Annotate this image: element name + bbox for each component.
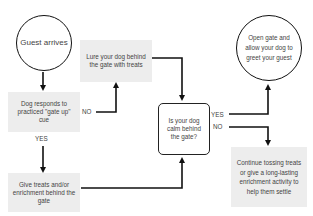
open-gate-node: Open gate and allow your dog to greet yo…: [236, 15, 302, 81]
continue-tossing-text: Continue tossing treats or give a long-l…: [234, 158, 304, 196]
guest-arrives-text: Guest arrives: [20, 37, 68, 49]
lure-dog-text: Lure your dog behind the gate with treat…: [84, 53, 148, 69]
open-gate-text: Open gate and allow your dog to greet yo…: [245, 33, 293, 63]
calm-no-label: NO: [213, 123, 222, 130]
responds-no-label: NO: [82, 108, 91, 115]
calm-yes-label: YES: [211, 111, 224, 118]
dog-responds-text: Dog responds to practiced "gate up" cue: [13, 100, 75, 124]
is-dog-calm-node: Is your dog calm behind the gate?: [158, 103, 210, 155]
continue-tossing-node: Continue tossing treats or give a long-l…: [231, 147, 307, 207]
guest-arrives-node: Guest arrives: [16, 15, 72, 71]
responds-yes-label: YES: [35, 135, 48, 142]
dog-responds-node: Dog responds to practiced "gate up" cue: [8, 92, 80, 132]
is-dog-calm-text: Is your dog calm behind the gate?: [163, 117, 205, 141]
give-treats-text: Give treats and/or enrichment behind the…: [12, 181, 76, 205]
give-treats-node: Give treats and/or enrichment behind the…: [8, 173, 80, 212]
lure-dog-node: Lure your dog behind the gate with treat…: [80, 40, 152, 82]
